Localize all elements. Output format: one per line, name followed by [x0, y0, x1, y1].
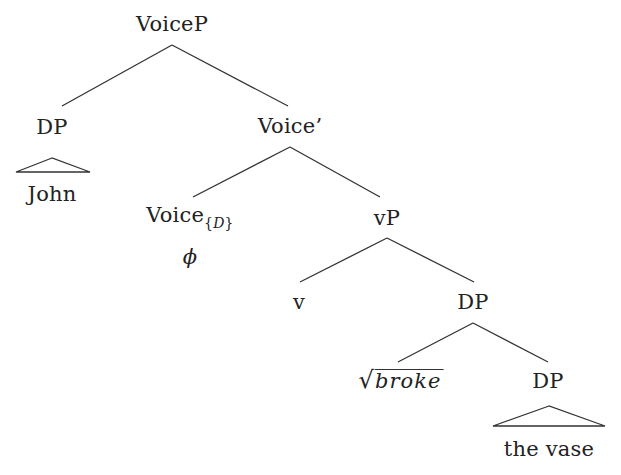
triangle-john — [16, 158, 90, 172]
node-phi: ϕ — [183, 247, 198, 268]
node-vp: vP — [374, 208, 400, 229]
edge-voicebar-voicehead — [193, 147, 290, 197]
node-voicep: VoiceP — [136, 14, 208, 35]
edge-voicep-voicebar — [172, 45, 288, 106]
edge-vp-v — [300, 238, 387, 282]
voice-head-subscript: {D} — [204, 215, 234, 231]
root-sqrt: √broke — [359, 368, 444, 392]
root-radicand: broke — [374, 369, 443, 392]
node-the-vase: the vase — [504, 439, 594, 460]
node-john: John — [28, 184, 77, 205]
edge-voicebar-vp — [290, 147, 380, 197]
triangle-the-vase — [493, 406, 605, 426]
edge-vp-dp — [387, 238, 474, 282]
voice-head-label: Voice — [146, 203, 204, 227]
node-v: v — [293, 292, 305, 313]
edge-voicep-dp — [62, 45, 172, 106]
node-voice-bar: Voice’ — [258, 116, 323, 137]
edge-dp-dp — [473, 323, 548, 362]
node-dp-inner: DP — [532, 371, 563, 392]
node-root-broke: √broke — [359, 368, 444, 392]
edge-dp-root — [398, 323, 473, 362]
syntax-tree-diagram: VoiceP DP John Voice’ Voice{D} ϕ vP v DP… — [0, 0, 621, 475]
square-root-icon: √ — [359, 368, 375, 392]
node-voice-head: Voice{D} — [146, 205, 233, 230]
node-dp-subject: DP — [36, 117, 67, 138]
node-dp-object: DP — [457, 292, 488, 313]
tree-edges — [0, 0, 621, 475]
